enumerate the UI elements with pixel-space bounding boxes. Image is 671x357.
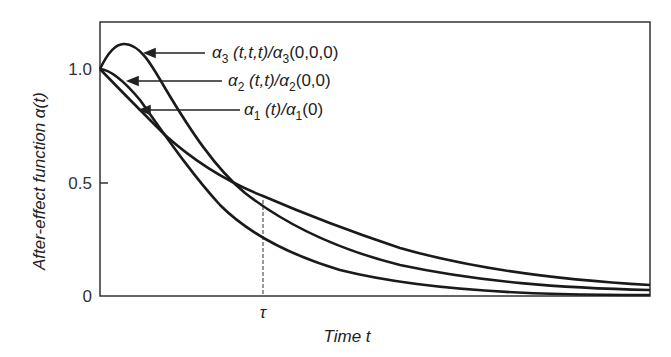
y-axis-label: After-effect function α(t) [30,92,49,271]
legend-alpha1: α1 (t)/α1(0) [244,100,323,123]
curve-alpha1 [100,69,650,285]
ytick-0: 0 [83,287,92,306]
arrowhead-alpha3 [145,49,155,57]
chart: 1.0 0.5 0 After-effect function α(t) Tim… [0,0,671,357]
ytick-0.5: 0.5 [68,174,92,193]
legend-alpha2: α2 (t,t)/α2(0,0) [228,71,331,94]
arrowhead-alpha2 [128,77,138,85]
legend-alpha3: α3 (t,t,t)/α3(0,0,0) [212,43,338,66]
xtick-tau: τ [260,303,268,322]
curve-alpha2 [100,69,650,295]
ytick-1.0: 1.0 [68,60,92,79]
x-axis-label: Time t [323,327,371,346]
